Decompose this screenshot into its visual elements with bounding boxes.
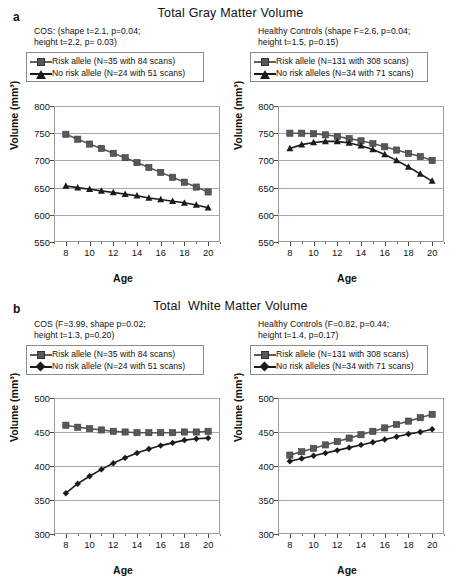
x-tick-label: 20 [427, 539, 437, 550]
data-point-square [393, 147, 399, 153]
data-point-diamond [393, 434, 399, 440]
data-point-diamond [310, 453, 316, 459]
y-tick-label: 300 [34, 529, 50, 540]
data-point-diamond [346, 444, 352, 450]
series-line [66, 438, 208, 493]
y-tick-label: 300 [258, 529, 274, 540]
y-tick-label: 650 [34, 182, 50, 193]
x-tick-mark [184, 534, 185, 538]
x-tick-minor [149, 242, 150, 244]
x-tick-label: 14 [356, 539, 366, 550]
series-layer [54, 106, 220, 242]
x-tick-label: 18 [179, 247, 189, 258]
legend-item[interactable]: Risk allele (N=131 with 308 scans) [254, 55, 423, 67]
legend-marker-diamond-icon [254, 361, 276, 372]
x-tick-label: 16 [379, 539, 389, 550]
data-point-square [382, 144, 388, 150]
y-axis-label: Volume (mm³) [232, 373, 244, 442]
x-tick-label: 18 [403, 247, 413, 258]
x-tick-label: 10 [84, 539, 94, 550]
x-tick-minor [397, 534, 398, 536]
data-point-diamond [122, 455, 128, 461]
x-tick-mark [137, 534, 138, 538]
x-tick-label: 8 [63, 539, 68, 550]
x-tick-minor [54, 534, 55, 536]
x-tick-label: 10 [308, 539, 318, 550]
legend-marker-diamond-icon [30, 361, 52, 372]
y-axis-label: Volume (mm³) [8, 81, 20, 150]
legend-item[interactable]: No risk allele (N=24 with 51 scans) [30, 67, 199, 79]
data-point-triangle [429, 177, 436, 184]
data-point-square [205, 189, 211, 195]
chart-stats-caption: Healthy Controls (F=0.82, p=0.44; height… [258, 319, 461, 340]
x-tick-mark [361, 534, 362, 538]
data-point-square [181, 179, 187, 185]
x-tick-minor [302, 242, 303, 244]
data-point-square [86, 141, 92, 147]
legend-item[interactable]: No risk alleles (N=34 with 71 scans) [254, 67, 423, 79]
legend-item[interactable]: Risk allele (N=35 with 84 scans) [30, 348, 199, 360]
data-point-triangle [417, 170, 424, 177]
data-point-diamond [181, 437, 187, 443]
legend-item-label: Risk allele (N=35 with 84 scans) [52, 56, 175, 66]
series-layer [278, 106, 444, 242]
data-point-diamond [334, 447, 340, 453]
x-tick-label: 20 [203, 539, 213, 550]
x-tick-minor [349, 534, 350, 536]
data-point-square [346, 435, 352, 441]
x-tick-mark [113, 242, 114, 246]
y-tick-label: 450 [34, 427, 50, 438]
plot-area: 5506006507007508008101214161820 [278, 106, 444, 242]
x-tick-minor [373, 534, 374, 536]
x-tick-label: 14 [132, 539, 142, 550]
data-point-square [158, 169, 164, 175]
x-tick-mark [361, 242, 362, 246]
legend-item[interactable]: No risk alleles (N=34 with 71 scans) [254, 360, 423, 372]
x-tick-mark [432, 242, 433, 246]
data-point-diamond [134, 450, 140, 456]
y-tick-label: 500 [258, 393, 274, 404]
series-layer [54, 398, 220, 534]
x-tick-minor [78, 242, 79, 244]
series-layer [278, 398, 444, 534]
panel-title: Total Gray Matter Volume [0, 6, 461, 20]
x-tick-label: 12 [332, 539, 342, 550]
legend-item-label: No risk allele (N=24 with 51 scans) [52, 68, 185, 78]
chart-legend: Risk allele (N=35 with 84 scans)No risk … [26, 345, 204, 375]
data-point-square [146, 430, 152, 436]
data-point-square [287, 130, 293, 136]
panel-title: Total White Matter Volume [0, 299, 461, 313]
x-tick-minor [278, 242, 279, 244]
legend-item[interactable]: Risk allele (N=35 with 84 scans) [30, 55, 199, 67]
data-point-diamond [417, 429, 423, 435]
data-point-diamond [358, 442, 364, 448]
x-tick-minor [349, 242, 350, 244]
x-tick-label: 12 [108, 247, 118, 258]
legend-item[interactable]: Risk allele (N=131 with 308 scans) [254, 348, 423, 360]
plot-area: 3003504004505008101214161820 [278, 398, 444, 534]
data-point-diamond [429, 426, 435, 432]
data-point-square [158, 430, 164, 436]
data-point-diamond [169, 440, 175, 446]
data-point-square [98, 145, 104, 151]
data-point-diamond [322, 450, 328, 456]
x-tick-label: 8 [287, 247, 292, 258]
legend-marker-triangle-icon [30, 68, 52, 79]
legend-marker-square-icon [254, 349, 276, 360]
data-point-square [370, 428, 376, 434]
data-point-square [322, 132, 328, 138]
x-tick-label: 8 [287, 539, 292, 550]
x-axis-label: Age [12, 564, 234, 576]
y-tick-label: 650 [258, 182, 274, 193]
data-point-square [169, 430, 175, 436]
x-tick-minor [220, 242, 221, 244]
x-tick-minor [78, 534, 79, 536]
legend-item[interactable]: No risk allele (N=24 with 51 scans) [30, 360, 199, 372]
x-tick-mark [208, 534, 209, 538]
data-point-square [417, 153, 423, 159]
data-point-square [122, 429, 128, 435]
x-tick-label: 12 [332, 247, 342, 258]
data-point-square [310, 131, 316, 137]
data-point-square [299, 130, 305, 136]
x-tick-minor [125, 242, 126, 244]
